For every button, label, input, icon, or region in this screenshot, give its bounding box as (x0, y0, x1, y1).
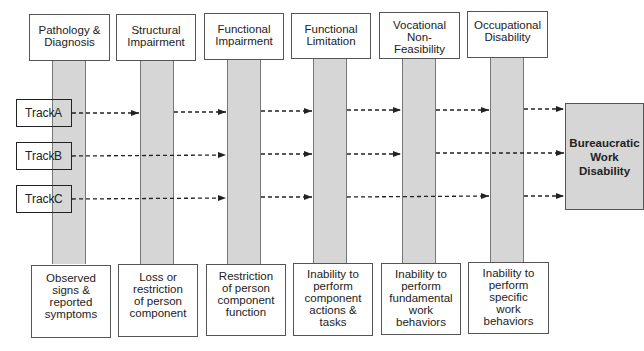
arrow-c-1 (72, 198, 226, 199)
arrow-c-3 (347, 196, 489, 197)
arrow-b-1 (72, 155, 226, 156)
track-arrows (0, 0, 644, 351)
